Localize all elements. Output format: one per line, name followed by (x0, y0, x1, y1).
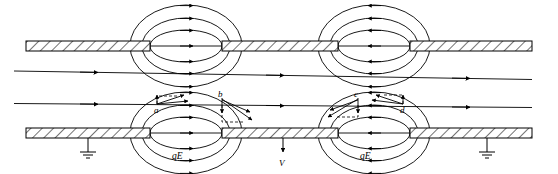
lower-drift-tubes (26, 128, 532, 138)
label-point-b: b (218, 89, 223, 99)
ground-left (80, 138, 96, 158)
drift-tube-segment (222, 41, 338, 51)
vector-group-c (328, 98, 358, 117)
upper-drift-tubes (26, 41, 532, 51)
diagram-canvas: a b c d qE qE (0, 0, 558, 174)
drift-tube-segment (410, 41, 532, 51)
label-force-right: qE (360, 151, 371, 161)
label-force-left: qE (172, 151, 183, 161)
drift-tube-segment (26, 128, 150, 138)
drift-tube-segment (26, 41, 150, 51)
ground-right (479, 138, 495, 158)
lower-panel: a b c d qE qE (14, 89, 532, 174)
lower-beam-line (14, 104, 532, 108)
drift-tube-segment (410, 128, 532, 138)
upper-panel (14, 5, 532, 87)
physics-diagram-svg: a b c d qE qE (0, 0, 558, 174)
label-velocity: V (279, 158, 286, 168)
drift-tube-segment (222, 128, 338, 138)
upper-beam-line (14, 71, 532, 80)
label-point-d: d (400, 105, 405, 115)
vector-group-a (157, 95, 188, 104)
label-point-c: c (354, 89, 358, 99)
label-point-a: a (154, 105, 159, 115)
vector-group-b (222, 98, 252, 122)
vector-horizontal-b (222, 100, 250, 112)
